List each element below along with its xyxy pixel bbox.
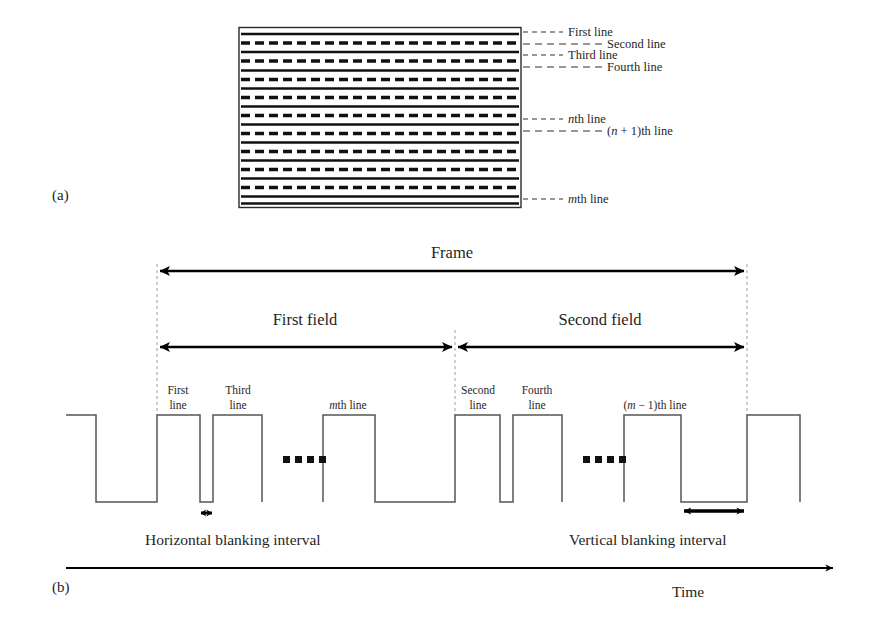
ellipsis-dot bbox=[319, 456, 326, 463]
waveform-segment-second-field-end bbox=[624, 415, 800, 502]
ellipsis-second-field bbox=[583, 456, 626, 463]
raster-label-mth: mth line bbox=[568, 192, 609, 206]
pulse-label-second-line-bottom: line bbox=[469, 399, 486, 411]
figure-root: First line Second line Third line Fourth… bbox=[0, 0, 875, 621]
pulse-label-mth-line: mth line bbox=[329, 399, 366, 411]
raster-label-mth-italic: m bbox=[568, 192, 577, 206]
waveform-segment-first-field-start bbox=[66, 415, 262, 502]
panel-b-label: (b) bbox=[52, 579, 70, 596]
ellipsis-dot bbox=[619, 456, 626, 463]
waveform-segment-second-field-start bbox=[323, 415, 562, 502]
pulse-label-third-line-top: Third bbox=[225, 384, 251, 396]
timing-panel: Frame First field Second field First lin… bbox=[52, 243, 833, 600]
vertical-blanking-label: Vertical blanking interval bbox=[569, 531, 727, 548]
ellipsis-dot bbox=[583, 456, 590, 463]
raster-label-nth-rest: th line bbox=[574, 112, 606, 126]
pulse-label-fourth-line-bottom: line bbox=[528, 399, 545, 411]
raster-label-n-plus-1: (n + 1)th line bbox=[607, 124, 673, 138]
raster-box-outline bbox=[239, 28, 521, 208]
raster-label-mth-rest: th line bbox=[577, 192, 609, 206]
raster-label-nth: nth line bbox=[568, 112, 606, 126]
time-axis-label: Time bbox=[672, 583, 704, 600]
pulse-label-m-minus-1-line: (m − 1)th line bbox=[623, 399, 686, 412]
second-field-label: Second field bbox=[559, 310, 643, 329]
pulse-label-mth-rest: th line bbox=[338, 399, 367, 411]
pulse-label-second-line-top: Second bbox=[461, 384, 495, 396]
pulse-label-first-line-top: First bbox=[167, 384, 189, 396]
raster-label-fourth: Fourth line bbox=[607, 60, 663, 74]
ellipsis-dot bbox=[307, 456, 314, 463]
pulse-label-mth-italic: m bbox=[329, 399, 337, 411]
frame-label: Frame bbox=[431, 243, 473, 262]
pulse-label-first-line-bottom: line bbox=[169, 399, 186, 411]
pulse-label-fourth-line-top: Fourth bbox=[522, 384, 553, 396]
ellipsis-dot bbox=[283, 456, 290, 463]
pulse-label-third-line-bottom: line bbox=[229, 399, 246, 411]
pulse-label-mm1-suffix: − 1)th line bbox=[636, 399, 687, 412]
ellipsis-dot bbox=[295, 456, 302, 463]
raster-panel: First line Second line Third line Fourth… bbox=[52, 25, 673, 208]
timing-waveform bbox=[66, 415, 800, 502]
ellipsis-dot bbox=[595, 456, 602, 463]
panel-a-label: (a) bbox=[52, 187, 69, 204]
pulse-label-mm1-italic: m bbox=[627, 399, 635, 411]
raster-label-np1-suffix: + 1)th line bbox=[617, 124, 673, 138]
first-field-label: First field bbox=[273, 310, 338, 329]
interlaced-scanning-figure: First line Second line Third line Fourth… bbox=[0, 0, 875, 621]
horizontal-blanking-label: Horizontal blanking interval bbox=[145, 531, 321, 548]
ellipsis-first-field bbox=[283, 456, 326, 463]
ellipsis-dot bbox=[607, 456, 614, 463]
